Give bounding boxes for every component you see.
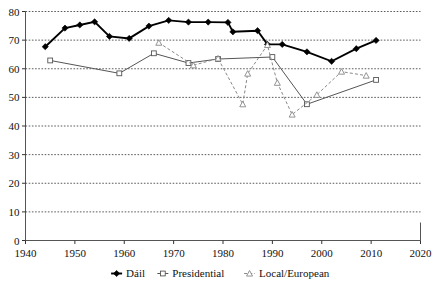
- data-point-1-0: [48, 58, 53, 63]
- x-tick-label-2010: 2010: [360, 247, 383, 259]
- legend-item-presidential: Presidential: [157, 267, 224, 279]
- data-point-1-1: [117, 71, 122, 76]
- legend-label-local-european: Local/European: [259, 267, 330, 279]
- x-tick-label-1970: 1970: [163, 247, 186, 259]
- data-point-0-7: [166, 17, 172, 23]
- data-point-0-2: [77, 22, 83, 28]
- data-point-2-3: [240, 101, 246, 107]
- data-point-2-10: [363, 73, 369, 79]
- x-tick-label-1980: 1980: [212, 247, 235, 259]
- line-chart: 0102030405060708019401950196019701980199…: [0, 0, 439, 292]
- gridlines: [26, 12, 421, 212]
- y-tick-label-0: 0: [14, 235, 20, 247]
- y-axis-ticks: 01020304050607080: [9, 6, 26, 247]
- y-tick-label-30: 30: [9, 149, 21, 161]
- x-tick-label-1960: 1960: [113, 247, 136, 259]
- legend-marker-presidential: [160, 271, 165, 276]
- x-axis-ticks: 194019501960197019801990200020102020: [15, 241, 433, 259]
- series-local-european: [156, 40, 369, 117]
- legend-marker-d-il: [114, 270, 120, 276]
- x-tick-label-2000: 2000: [311, 247, 334, 259]
- y-tick-label-80: 80: [9, 6, 21, 18]
- series-line-2: [159, 43, 366, 115]
- data-point-1-7: [374, 78, 379, 83]
- y-tick-label-70: 70: [9, 34, 21, 46]
- x-tick-label-1950: 1950: [64, 247, 87, 259]
- y-tick-label-50: 50: [9, 91, 21, 103]
- series-line-0: [45, 20, 376, 61]
- data-point-0-8: [185, 19, 191, 25]
- y-tick-label-60: 60: [9, 63, 21, 75]
- data-point-1-2: [151, 51, 156, 56]
- data-point-2-9: [339, 69, 345, 75]
- data-point-0-18: [373, 37, 379, 43]
- legend-item-d-il: Dáil: [111, 267, 145, 279]
- y-tick-label-10: 10: [9, 206, 21, 218]
- y-tick-label-20: 20: [9, 177, 21, 189]
- data-point-0-15: [304, 49, 310, 55]
- data-point-2-0: [156, 40, 162, 46]
- x-tick-label-1990: 1990: [261, 247, 284, 259]
- x-tick-label-1940: 1940: [15, 247, 38, 259]
- chart-container: 0102030405060708019401950196019701980199…: [0, 0, 439, 292]
- data-point-0-16: [329, 58, 335, 64]
- legend-item-local-european: Local/European: [244, 267, 330, 279]
- series-d-il: [42, 17, 379, 64]
- y-tick-label-40: 40: [9, 120, 21, 132]
- legend-label-presidential: Presidential: [172, 267, 224, 279]
- series-line-1: [50, 53, 376, 104]
- data-point-2-6: [274, 80, 280, 86]
- legend-label-d-il: Dáil: [126, 267, 145, 279]
- data-point-0-9: [205, 19, 211, 25]
- x-tick-label-2020: 2020: [410, 247, 433, 259]
- data-point-0-14: [279, 41, 285, 47]
